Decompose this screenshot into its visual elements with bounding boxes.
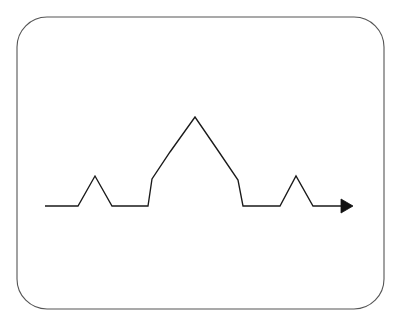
arrow-head-icon [341, 199, 353, 213]
figure-canvas [0, 0, 395, 325]
koch-curve-path [45, 117, 344, 206]
rounded-rectangle-border [17, 17, 384, 309]
koch-curve-figure [0, 0, 395, 325]
